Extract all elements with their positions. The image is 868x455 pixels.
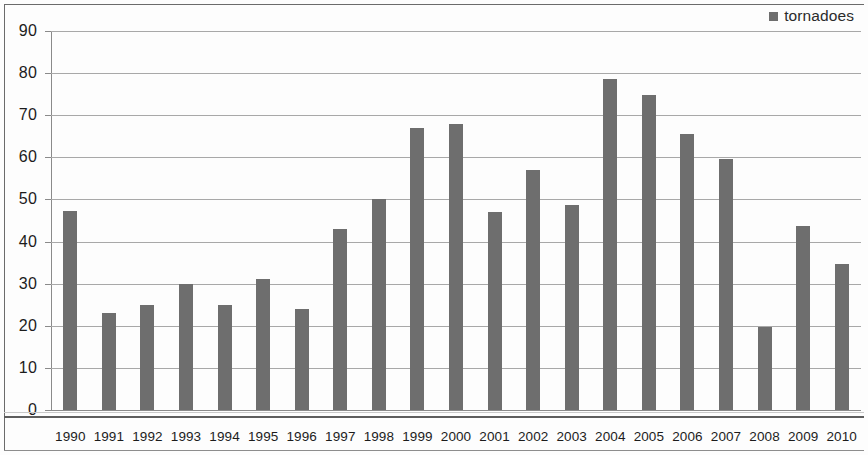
x-axis-tick-label: 1992	[132, 429, 162, 444]
gridline	[51, 31, 861, 32]
x-axis-tick-label: 1993	[171, 429, 201, 444]
plot-area	[51, 31, 861, 410]
y-axis-tick-mark	[45, 284, 51, 285]
x-axis-tick-label: 1991	[94, 429, 124, 444]
x-axis-tick-label: 2001	[479, 429, 509, 444]
y-axis: 0102030405060708090	[0, 0, 46, 455]
x-axis-tick-label: 1997	[325, 429, 355, 444]
frame-top-border	[4, 4, 864, 5]
x-axis-tick-label: 2002	[518, 429, 548, 444]
x-axis-tick-label: 1994	[209, 429, 239, 444]
y-axis-tick-mark	[45, 31, 51, 32]
y-axis-tick-mark	[45, 199, 51, 200]
x-axis: 1990199119921993199419951996199719981999…	[4, 417, 864, 451]
bar	[372, 199, 386, 410]
y-axis-tick-mark	[45, 326, 51, 327]
x-axis-tick-label: 2000	[441, 429, 471, 444]
bar	[102, 313, 116, 410]
legend-swatch-icon	[769, 12, 778, 21]
bar	[218, 305, 232, 410]
bar	[680, 134, 694, 410]
y-axis-tick-label: 10	[19, 359, 37, 377]
bar	[758, 327, 772, 410]
x-axis-tick-label: 1995	[248, 429, 278, 444]
gridline	[51, 410, 861, 411]
y-axis-tick-mark	[45, 115, 51, 116]
x-axis-tick-label: 1999	[402, 429, 432, 444]
gridline	[51, 115, 861, 116]
bar	[526, 170, 540, 410]
bar	[140, 305, 154, 410]
y-axis-tick-label: 90	[19, 22, 37, 40]
bar	[642, 95, 656, 410]
legend-label: tornadoes	[784, 8, 854, 24]
y-axis-tick-mark	[45, 242, 51, 243]
bar	[835, 264, 849, 410]
y-axis-tick-mark	[45, 73, 51, 74]
bar	[410, 128, 424, 410]
x-axis-tick-label: 2005	[634, 429, 664, 444]
y-axis-tick-mark	[45, 410, 51, 411]
x-axis-tick-label: 2006	[672, 429, 702, 444]
bar	[179, 284, 193, 410]
bar	[488, 212, 502, 410]
y-axis-tick-label: 80	[19, 64, 37, 82]
x-axis-tick-label: 2004	[595, 429, 625, 444]
bar	[603, 79, 617, 410]
bar	[63, 211, 77, 410]
x-axis-tick-label: 1996	[286, 429, 316, 444]
bar-chart: tornadoes 0102030405060708090 1990199119…	[0, 0, 868, 455]
y-axis-tick-label: 70	[19, 106, 37, 124]
y-axis-tick-label: 50	[19, 190, 37, 208]
bar	[796, 226, 810, 410]
bar	[719, 159, 733, 410]
x-axis-tick-label: 2010	[826, 429, 856, 444]
gridline	[51, 73, 861, 74]
x-axis-tick-label: 2003	[556, 429, 586, 444]
y-axis-tick-mark	[45, 157, 51, 158]
y-axis-tick-label: 30	[19, 275, 37, 293]
y-axis-tick-mark	[45, 368, 51, 369]
bar	[333, 229, 347, 410]
y-axis-tick-label: 20	[19, 317, 37, 335]
x-axis-tick-label: 1990	[55, 429, 85, 444]
bar	[256, 279, 270, 410]
x-axis-thin-rule	[4, 412, 864, 413]
y-axis-tick-label: 60	[19, 148, 37, 166]
x-axis-tick-label: 2009	[788, 429, 818, 444]
x-axis-tick-label: 2007	[711, 429, 741, 444]
bar	[295, 309, 309, 410]
x-axis-tick-label: 2008	[749, 429, 779, 444]
x-axis-tick-label: 1998	[364, 429, 394, 444]
legend: tornadoes	[769, 7, 854, 25]
bar	[565, 205, 579, 410]
bar	[449, 124, 463, 410]
y-axis-tick-label: 40	[19, 233, 37, 251]
